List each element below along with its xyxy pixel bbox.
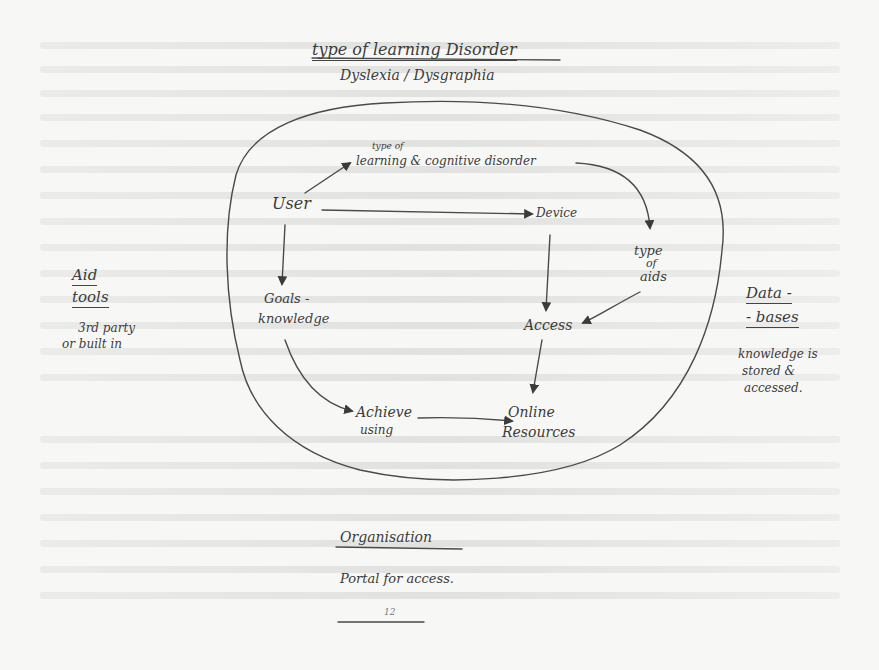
- node-type-of-aids-line: of: [646, 258, 657, 269]
- aid-tools-note-line: 3rd party: [78, 322, 135, 334]
- node-access: Access: [524, 318, 572, 332]
- aid-tools-note-line: or built in: [62, 338, 122, 350]
- edge-disorder-aids: [576, 163, 650, 228]
- node-achieve-line: using: [360, 424, 393, 436]
- diagram-canvas: [0, 0, 879, 670]
- node-type-of-aids-line: aids: [640, 270, 667, 283]
- node-achieve-line: Achieve: [356, 405, 412, 419]
- databases-heading: Data -: [746, 286, 792, 304]
- node-online-line: Online: [508, 405, 555, 419]
- diagram-subtitle: Dyslexia / Dysgraphia: [340, 68, 495, 82]
- node-disorder: learning & cognitive disorder: [356, 155, 536, 167]
- databases-heading: - bases: [746, 310, 799, 328]
- page-number: 12: [384, 608, 395, 617]
- aid-tools-heading: tools: [72, 290, 109, 308]
- node-device: Device: [536, 207, 577, 219]
- node-disorder-prefix: type of: [372, 142, 403, 151]
- edge-aids-access: [583, 292, 640, 323]
- node-type-of-aids-line: type: [634, 244, 663, 257]
- node-goals-line: knowledge: [258, 312, 329, 325]
- edge-user-device: [322, 210, 532, 214]
- organisation-note: Portal for access.: [340, 572, 454, 585]
- edge-achieve-online: [418, 418, 512, 421]
- edge-device-access: [546, 235, 550, 310]
- aid-tools-heading: Aid: [72, 268, 97, 286]
- databases-note-line: knowledge is: [738, 348, 818, 360]
- edge-goals-achieve: [285, 340, 352, 411]
- edge-user-goals: [282, 225, 285, 284]
- diagram-title: type of learning Disorder: [312, 42, 517, 61]
- organisation-underline: [336, 547, 462, 549]
- edge-user-disorder: [305, 163, 350, 193]
- node-user: User: [272, 196, 311, 212]
- edge-access-online: [533, 340, 542, 392]
- node-online-line: Resources: [502, 425, 575, 439]
- databases-note-line: accessed.: [744, 382, 803, 394]
- databases-note-line: stored &: [742, 365, 795, 377]
- node-goals-line: Goals -: [264, 292, 309, 305]
- organisation-heading: Organisation: [340, 530, 432, 544]
